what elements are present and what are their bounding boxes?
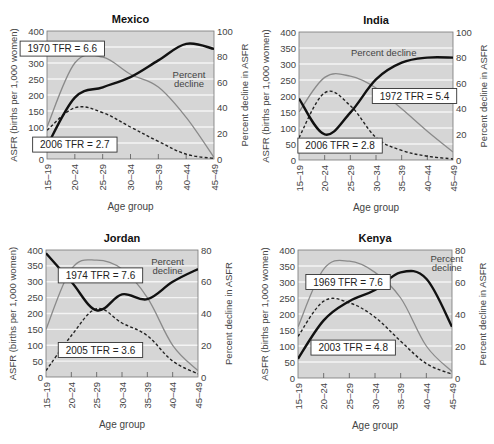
y-tick-label: 350 [27, 260, 43, 271]
y2-axis-label: Percent decline in ASFR [477, 262, 488, 365]
x-tick-label: 25–29 [344, 383, 355, 409]
annotation-label: decline [432, 262, 462, 273]
y2-tick-label: 80 [201, 245, 212, 256]
annotation-label: 2006 TFR = 2.8 [305, 140, 375, 151]
y2-tick-label: 100 [456, 27, 472, 38]
annotation-label: 1974 TFR = 7.6 [66, 270, 136, 281]
y2-tick-label: 100 [217, 26, 233, 37]
y-axis-label: ASFR (births per 1,000 women) [8, 28, 19, 162]
y2-tick-label: 40 [456, 103, 467, 114]
y-tick-label: 400 [27, 245, 43, 256]
y2-axis-label: Percent decline in ASFR [223, 262, 234, 365]
chart-jordan: Jordan15–1920–2425–2930–3435–3940–4445–4… [7, 232, 234, 430]
annotation-label: Percent decline [351, 47, 416, 58]
y2-tick-label: 40 [455, 309, 466, 320]
chart-title: India [363, 14, 390, 26]
chart-kenya: Kenya15–1920–2425–2930–3435–3940–4445–49… [259, 232, 488, 431]
x-tick-label: 40–44 [422, 165, 433, 191]
chart-title: Kenya [358, 232, 392, 244]
y2-tick-label: 20 [217, 128, 228, 139]
y-axis-label: ASFR (births per 1,000 women) [260, 29, 271, 163]
x-tick-label: 25–29 [97, 164, 108, 190]
y2-tick-label: 0 [455, 373, 460, 384]
x-tick-label: 35–39 [142, 382, 153, 408]
y-axis-label: ASFR (births per 1,000 women) [7, 247, 18, 381]
figure-asfr-four-countries: Mexico15–1920–2425–2930–3435–3940–4445–4… [0, 0, 494, 444]
y-tick-label: 200 [280, 91, 296, 102]
x-tick-label: 20–24 [69, 164, 80, 190]
y-tick-label: 250 [28, 74, 44, 85]
y2-tick-label: 0 [456, 155, 461, 166]
y2-tick-label: 20 [201, 340, 212, 351]
y-tick-label: 0 [290, 373, 295, 384]
x-tick-label: 30–34 [117, 382, 128, 408]
x-tick-label: 30–34 [371, 165, 382, 191]
y-tick-label: 50 [285, 139, 296, 150]
y-tick-label: 50 [284, 357, 295, 368]
x-tick-label: 45–49 [448, 165, 459, 191]
x-tick-label: 25–29 [91, 382, 102, 408]
y-tick-label: 400 [28, 26, 44, 37]
x-tick-label: 15–19 [294, 165, 305, 191]
y-tick-label: 300 [279, 277, 295, 288]
x-tick-label: 40–44 [167, 382, 178, 408]
y-tick-label: 150 [28, 106, 44, 117]
x-axis-label: Age group [352, 420, 399, 431]
y2-axis-label: Percent decline in ASFR [239, 43, 250, 146]
y2-tick-label: 0 [217, 154, 222, 165]
y-tick-label: 400 [280, 27, 296, 38]
annotation-label: decline [153, 265, 183, 276]
y-tick-label: 300 [27, 276, 43, 287]
x-tick-label: 20–24 [66, 382, 77, 408]
y-tick-label: 200 [27, 308, 43, 319]
y-tick-label: 300 [28, 58, 44, 69]
y2-tick-label: 20 [456, 129, 467, 140]
y-tick-label: 150 [279, 325, 295, 336]
annotation-label: decline [174, 78, 204, 89]
x-axis-label: Age group [107, 201, 154, 212]
x-tick-label: 20–24 [319, 165, 330, 191]
x-tick-label: 15–19 [41, 382, 52, 408]
y-tick-label: 350 [279, 261, 295, 272]
y2-tick-label: 20 [455, 341, 466, 352]
x-tick-label: 35–39 [395, 383, 406, 409]
y-tick-label: 100 [280, 123, 296, 134]
y2-tick-label: 80 [456, 52, 467, 63]
y2-tick-label: 80 [217, 51, 228, 62]
y2-tick-label: 60 [217, 77, 228, 88]
y-tick-label: 200 [28, 90, 44, 101]
y-tick-label: 50 [32, 356, 43, 367]
x-tick-label: 35–39 [153, 164, 164, 190]
x-tick-label: 45–49 [209, 164, 220, 190]
x-axis-label: Age group [353, 202, 400, 213]
y2-tick-label: 60 [201, 276, 212, 287]
y-tick-label: 0 [38, 372, 43, 383]
y-tick-label: 0 [39, 154, 44, 165]
y-tick-label: 200 [279, 309, 295, 320]
y-tick-label: 150 [27, 324, 43, 335]
y-tick-label: 300 [280, 59, 296, 70]
x-tick-label: 30–34 [125, 164, 136, 190]
x-tick-label: 45–49 [193, 382, 204, 408]
x-tick-label: 40–44 [181, 164, 192, 190]
y2-tick-label: 60 [455, 277, 466, 288]
y-tick-label: 100 [28, 122, 44, 133]
y-tick-label: 400 [279, 245, 295, 256]
y-tick-label: 150 [280, 107, 296, 118]
y-tick-label: 250 [280, 75, 296, 86]
y-tick-label: 100 [27, 340, 43, 351]
chart-mexico: Mexico15–1920–2425–2930–3435–3940–4445–4… [8, 13, 250, 212]
x-tick-label: 45–49 [447, 383, 458, 409]
y2-tick-label: 40 [217, 102, 228, 113]
annotation-label: 2005 TFR = 3.6 [66, 345, 136, 356]
y2-axis-label: Percent decline in ASFR [478, 44, 489, 147]
x-tick-label: 25–29 [345, 165, 356, 191]
annotation-label: 1970 TFR = 6.6 [28, 43, 98, 54]
annotation-label: 1969 TFR = 7.6 [313, 277, 383, 288]
annotation-label: 2003 TFR = 4.8 [318, 342, 388, 353]
x-tick-label: 15–19 [42, 164, 53, 190]
y-tick-label: 250 [279, 293, 295, 304]
x-tick-label: 40–44 [421, 383, 432, 409]
y2-tick-label: 40 [201, 308, 212, 319]
annotation-label: 2006 TFR = 2.7 [40, 139, 110, 150]
